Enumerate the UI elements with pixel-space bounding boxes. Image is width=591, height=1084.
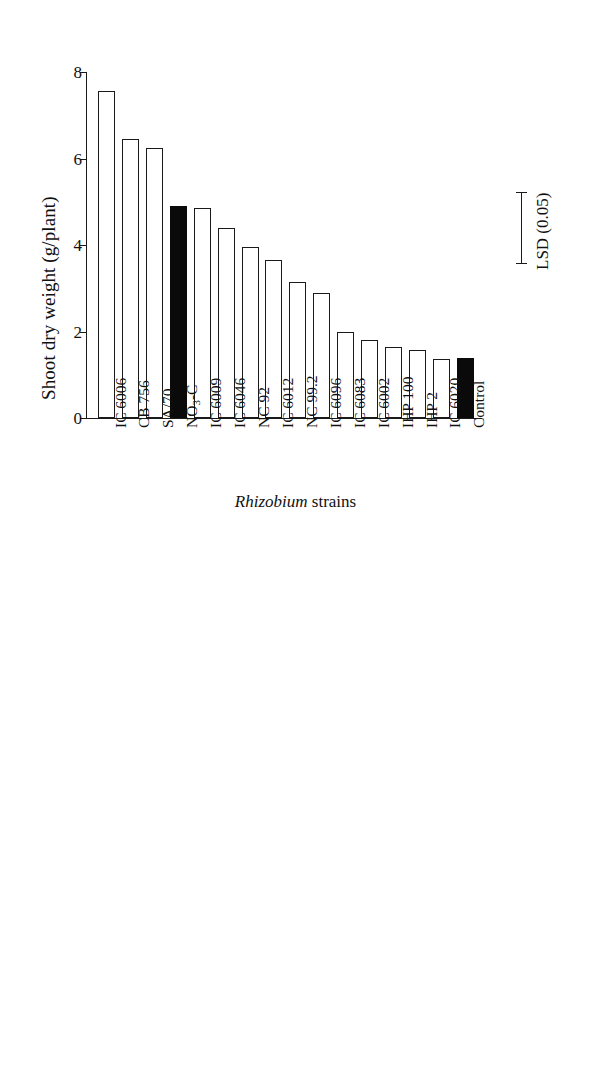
shoot-x-caption-genus: Rhizobium — [235, 492, 308, 511]
category-label-nc-99-2: NC 99.2 — [304, 375, 320, 428]
category-label-ihp-100: IHP 100 — [400, 376, 416, 428]
category-label-ic-6096: IC 6096 — [328, 378, 344, 428]
shoot-y-axis-line — [86, 72, 87, 418]
shoot-y-tick-label: 4 — [74, 237, 83, 254]
shoot-x-axis-caption: Rhizobium strains — [0, 492, 591, 512]
shoot-plot-area: 02468 — [86, 72, 482, 418]
panel-shoot-dry-weight: Shoot dry weight (g/plant) 02468 IC 6006… — [0, 0, 591, 540]
category-label-ihp-2: IHP 2 — [424, 392, 440, 428]
category-label-control: Control — [471, 381, 487, 428]
shoot-y-tick-label: 6 — [74, 150, 83, 167]
panel-nodule-dry-weight: Nodule dry weight (g) .02.04.06.08.10.12… — [0, 540, 591, 1084]
category-label-ic-6012: IC 6012 — [280, 378, 296, 428]
category-label-ic-6002: IC 6002 — [376, 378, 392, 428]
shoot-lsd-cap-top — [516, 192, 527, 193]
bar-ic-6006 — [98, 91, 115, 418]
shoot-x-caption-rest: strains — [308, 492, 357, 511]
category-label-sa-70: SA/70 — [160, 388, 176, 428]
bar-cb-756 — [122, 139, 139, 418]
shoot-lsd-bar — [521, 192, 522, 264]
shoot-lsd-label: LSD (0.05) — [534, 192, 551, 269]
shoot-y-axis-title: Shoot dry weight (g/plant) — [38, 196, 60, 400]
shoot-y-tick-label: 8 — [74, 64, 83, 81]
bar-sa-70 — [146, 148, 163, 418]
category-label-ic-6006: IC 6006 — [113, 378, 129, 428]
category-label-no3-c: NO3-C — [184, 385, 200, 428]
shoot-y-tick-label: 2 — [74, 323, 83, 340]
shoot-y-tick-label: 0 — [74, 410, 83, 427]
shoot-lsd-cap-bottom — [516, 263, 527, 264]
category-label-nc-92: NC 92 — [256, 387, 272, 428]
category-label-cb-756: CB 756 — [136, 380, 152, 428]
category-label-ic-6009: IC 6009 — [208, 378, 224, 428]
figure-two-panel-bar-charts: Shoot dry weight (g/plant) 02468 IC 6006… — [0, 0, 591, 1084]
category-label-ic-6083: IC 6083 — [352, 378, 368, 428]
category-label-ic-6046: IC 6046 — [232, 378, 248, 428]
category-label-ic-6020: IC 6020 — [447, 378, 463, 428]
